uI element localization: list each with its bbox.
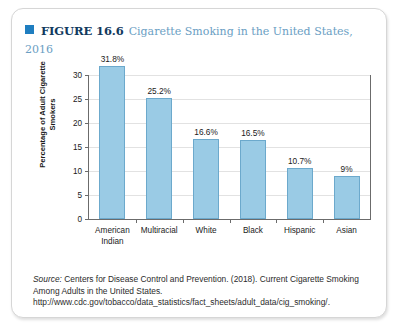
y-tick-label: 30 [73,71,82,80]
bar[interactable] [334,176,360,219]
y-tick-label: 0 [77,215,82,224]
bar[interactable] [240,140,266,219]
figure-title-row: FIGURE 16.6Cigarette Smoking in the Unit… [25,21,374,57]
source-note: Source: Centers for Disease Control and … [33,274,367,309]
bar-group: 16.6%White [183,75,230,219]
bar[interactable] [146,98,172,219]
bar[interactable] [287,168,313,219]
bar-value-label: 16.5% [241,128,265,138]
x-tick-label: Black [243,226,263,237]
bar-group: 25.2%Multiracial [136,75,183,219]
x-tick-mark [323,219,324,223]
y-tick-label: 25 [73,95,82,104]
bar-group: 16.5%Black [230,75,277,219]
x-tick-label: Hispanic [284,226,315,237]
x-tick-mark [136,219,137,223]
plot-area: 05101520253031.8%American Indian25.2%Mul… [88,75,371,220]
y-tick-label: 15 [73,143,82,152]
x-tick-label: White [196,226,217,237]
bar[interactable] [99,66,125,219]
x-tick-mark [276,219,277,223]
bar-value-label: 16.6% [194,127,218,137]
bar-group: 31.8%American Indian [89,75,136,219]
bar-group: 9%Asian [323,75,370,219]
bar-value-label: 25.2% [147,86,171,96]
x-tick-label: American Indian [95,226,130,247]
chart-area: Percentage of Adult Cigarette Smokers 05… [25,61,375,257]
figure-label: FIGURE 16.6 [41,24,124,38]
bar[interactable] [193,139,219,219]
bar-group: 10.7%Hispanic [276,75,323,219]
x-tick-label: Asian [336,226,356,237]
bar-value-label: 10.7% [288,156,312,166]
source-text: Centers for Disease Control and Preventi… [33,274,359,307]
y-tick-label: 10 [73,167,82,176]
bar-value-label: 31.8% [101,54,125,64]
y-tick-mark [85,219,89,220]
x-tick-label: Multiracial [141,226,178,237]
figure-card: FIGURE 16.6Cigarette Smoking in the Unit… [11,8,387,318]
y-axis-title: Percentage of Adult Cigarette Smokers [38,60,57,170]
x-tick-mark [183,219,184,223]
bar-value-label: 9% [341,164,353,174]
blue-square-icon [25,25,34,34]
y-tick-label: 20 [73,119,82,128]
source-prefix: Source: [33,274,62,284]
y-tick-label: 5 [77,191,82,200]
x-tick-mark [230,219,231,223]
